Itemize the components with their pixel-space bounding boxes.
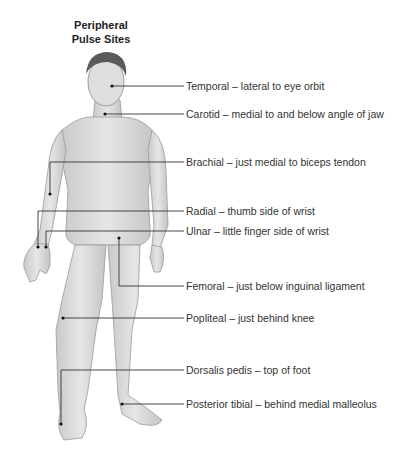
dot-brachial xyxy=(48,192,51,195)
dot-carotid xyxy=(103,112,106,115)
dot-temporal xyxy=(110,84,113,87)
dot-popliteal xyxy=(61,316,64,319)
body-silhouette xyxy=(24,100,168,440)
label-posterior-tibial: Posterior tibial – behind medial malleol… xyxy=(186,398,377,410)
dot-ulnar xyxy=(44,245,47,248)
label-brachial: Brachial – just medial to biceps tendon xyxy=(186,156,366,168)
label-dorsalis-pedis: Dorsalis pedis – top of foot xyxy=(186,364,310,376)
dot-dorsalis-pedis xyxy=(59,422,62,425)
label-ulnar: Ulnar – little finger side of wrist xyxy=(186,225,329,237)
head xyxy=(86,52,126,106)
label-carotid: Carotid – medial to and below angle of j… xyxy=(186,108,384,120)
label-femoral: Femoral – just below inguinal ligament xyxy=(186,280,365,292)
label-radial: Radial – thumb side of wrist xyxy=(186,205,315,217)
dot-femoral xyxy=(117,236,120,239)
dot-radial xyxy=(36,245,39,248)
label-temporal: Temporal – lateral to eye orbit xyxy=(186,80,324,92)
label-popliteal: Popliteal – just behind knee xyxy=(186,312,314,324)
dot-posterior-tibial xyxy=(120,402,123,405)
